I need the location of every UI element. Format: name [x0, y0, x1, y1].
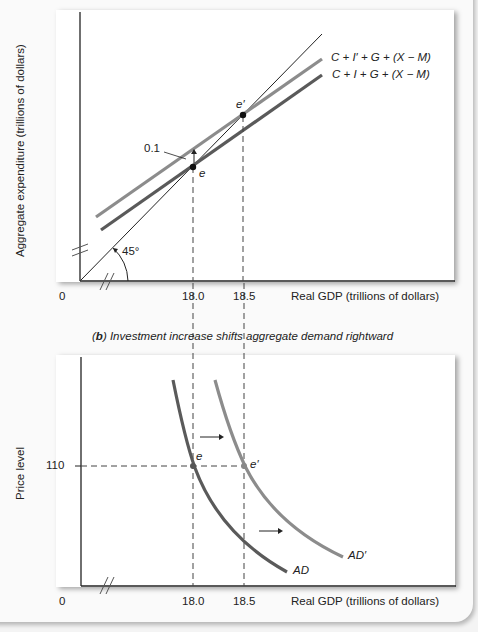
ad-prime-label: AD′	[348, 549, 366, 561]
aggregate-expenditure-new-line	[96, 59, 322, 217]
point-e-label: e	[199, 167, 205, 179]
shift-arrowhead-lower-icon	[278, 528, 283, 534]
point-e-b	[190, 463, 196, 469]
point-e-prime-label: e′	[236, 98, 245, 110]
panel-b-title-text: Investment increase shifts aggregate dem…	[107, 330, 393, 342]
panel-b-y-axis-label: Price level	[14, 447, 26, 500]
panel-b-x-axis-label: Real GDP (trillions of dollars)	[291, 595, 439, 607]
panel-b-origin-label: 0	[59, 595, 65, 607]
panel-a-x-axis-label: Real GDP (trillions of dollars)	[291, 290, 439, 302]
aggregate-expenditure-line	[101, 75, 322, 230]
line-old-label: C + I + G + (X − M)	[332, 68, 430, 80]
shift-arrowhead-upper-icon	[219, 434, 224, 440]
line-new-label: C + I′ + G + (X − M)	[331, 51, 431, 63]
ad-label: AD	[293, 564, 309, 576]
point-e	[190, 164, 196, 170]
panel-b-y-tick-110: 110	[46, 459, 64, 471]
point-e-prime-b-label: e′	[250, 458, 259, 470]
angle-label: 45°	[122, 245, 139, 257]
point-e-b-label: e	[196, 450, 202, 462]
chart-svg	[0, 0, 478, 632]
panel-b-x-tick-18-0: 18.0	[182, 595, 204, 607]
panel-a-y-axis-label: Aggregate expenditure (trillions of doll…	[14, 44, 26, 257]
panel-b-title-letter: b	[96, 330, 103, 342]
panel-a-origin-label: 0	[59, 290, 65, 302]
panel-b-title: (b) Investment increase shifts aggregate…	[92, 330, 393, 342]
panel-a-x-tick-18-5: 18.5	[233, 290, 255, 302]
point-e-prime-b	[241, 463, 247, 469]
ad-curve	[173, 380, 287, 572]
point-e-prime	[240, 112, 246, 118]
45-degree-line	[81, 34, 322, 280]
panel-b-x-tick-18-5: 18.5	[233, 595, 255, 607]
shift-label: 0.1	[144, 142, 160, 154]
panel-a-x-tick-18-0: 18.0	[182, 290, 204, 302]
